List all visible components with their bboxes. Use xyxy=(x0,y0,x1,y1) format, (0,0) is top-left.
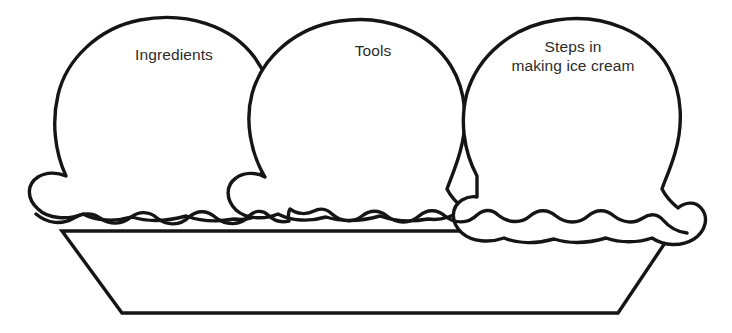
worksheet-canvas: Ingredients Tools Steps in making ice cr… xyxy=(0,0,732,333)
scoop-label-ingredients: Ingredients xyxy=(92,45,256,64)
scoop-label-steps: Steps in making ice cream xyxy=(490,37,656,75)
scoop-label-tools: Tools xyxy=(300,41,446,60)
